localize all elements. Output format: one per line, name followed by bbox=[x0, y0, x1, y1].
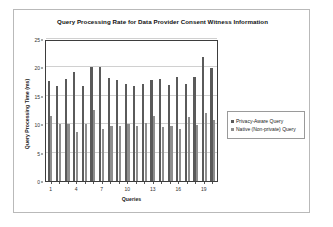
bar-group bbox=[210, 41, 215, 181]
y-tick-mark bbox=[41, 182, 44, 183]
y-tick-label: 15 bbox=[34, 94, 40, 100]
chart-figure: Query Processing Rate for Data Provider … bbox=[13, 9, 310, 213]
bar-group bbox=[90, 41, 95, 181]
x-tick-mark bbox=[102, 182, 103, 184]
bar-group bbox=[176, 41, 181, 181]
y-tick-label: 20 bbox=[34, 65, 40, 71]
x-tick-label: 19 bbox=[201, 186, 207, 192]
bar-native bbox=[196, 125, 198, 181]
y-tick-label: 10 bbox=[34, 122, 40, 128]
bar-native bbox=[188, 117, 190, 181]
x-tick-mark bbox=[170, 182, 171, 184]
chart-title: Query Processing Rate for Data Provider … bbox=[14, 18, 311, 25]
x-tick-mark bbox=[119, 182, 120, 184]
bar-group bbox=[116, 41, 121, 181]
x-axis-label: Queries bbox=[45, 196, 218, 202]
gridline bbox=[46, 38, 217, 39]
bar-group bbox=[48, 41, 53, 181]
chart-legend: Privacy-Aware QueryNative (Non-private) … bbox=[227, 111, 305, 139]
y-tick-mark bbox=[41, 40, 44, 41]
bar-native bbox=[110, 126, 112, 181]
bar-group bbox=[65, 41, 70, 181]
bar-group bbox=[168, 41, 173, 181]
x-tick-mark bbox=[59, 182, 60, 184]
y-tick-mark bbox=[41, 96, 44, 97]
bar-group bbox=[185, 41, 190, 181]
bar-native bbox=[145, 123, 147, 181]
x-tick-mark bbox=[127, 182, 128, 184]
bar-native bbox=[67, 124, 69, 181]
legend-item[interactable]: Privacy-Aware Query bbox=[231, 118, 301, 124]
bar-native bbox=[136, 126, 138, 181]
plot-area bbox=[45, 40, 218, 182]
x-tick-label: 7 bbox=[100, 186, 103, 192]
x-tick-label: 16 bbox=[175, 186, 181, 192]
x-tick-mark bbox=[110, 182, 111, 184]
x-axis-ticks: 14710131619 bbox=[45, 184, 218, 194]
bar-group bbox=[56, 41, 61, 181]
x-tick-mark bbox=[136, 182, 137, 184]
x-tick-mark bbox=[204, 182, 205, 184]
bar-group bbox=[99, 41, 104, 181]
x-tick-label: 1 bbox=[49, 186, 52, 192]
x-tick-mark bbox=[212, 182, 213, 184]
y-tick-label: 25 bbox=[34, 37, 40, 43]
bar-native bbox=[85, 124, 87, 181]
x-tick-mark bbox=[187, 182, 188, 184]
bar-group bbox=[142, 41, 147, 181]
legend-label: Privacy-Aware Query bbox=[236, 118, 283, 124]
y-tick-mark bbox=[41, 153, 44, 154]
x-tick-label: 13 bbox=[150, 186, 156, 192]
bar-group bbox=[73, 41, 78, 181]
bar-native bbox=[127, 124, 129, 181]
bar-group bbox=[202, 41, 207, 181]
legend-item[interactable]: Native (Non-private) Query bbox=[231, 126, 301, 132]
bar-group bbox=[133, 41, 138, 181]
bar-native bbox=[93, 110, 95, 181]
x-tick-mark bbox=[68, 182, 69, 184]
x-tick-mark bbox=[161, 182, 162, 184]
y-tick-mark bbox=[41, 68, 44, 69]
x-tick-mark bbox=[93, 182, 94, 184]
legend-label: Native (Non-private) Query bbox=[236, 126, 296, 132]
bar-native bbox=[50, 116, 52, 181]
x-tick-mark bbox=[144, 182, 145, 184]
bar-series-container bbox=[46, 41, 217, 181]
x-tick-mark bbox=[153, 182, 154, 184]
x-tick-mark bbox=[178, 182, 179, 184]
x-tick-mark bbox=[76, 182, 77, 184]
y-axis-ticks: 0510152025 bbox=[14, 40, 43, 182]
bar-group bbox=[159, 41, 164, 181]
bar-native bbox=[179, 129, 181, 181]
bar-native bbox=[213, 120, 215, 181]
x-tick-label: 4 bbox=[75, 186, 78, 192]
bar-native bbox=[162, 127, 164, 181]
bar-native bbox=[170, 126, 172, 181]
x-tick-mark bbox=[51, 182, 52, 184]
legend-swatch-icon bbox=[231, 128, 234, 131]
legend-swatch-icon bbox=[231, 120, 234, 123]
bar-group bbox=[82, 41, 87, 181]
bar-native bbox=[153, 116, 155, 181]
bar-native bbox=[119, 126, 121, 181]
bar-group bbox=[125, 41, 130, 181]
bar-group bbox=[193, 41, 198, 181]
bar-group bbox=[150, 41, 155, 181]
bar-group bbox=[108, 41, 113, 181]
y-tick-mark bbox=[41, 125, 44, 126]
x-tick-label: 10 bbox=[124, 186, 130, 192]
bar-native bbox=[102, 129, 104, 181]
bar-native bbox=[76, 132, 78, 181]
x-tick-mark bbox=[85, 182, 86, 184]
x-tick-mark bbox=[195, 182, 196, 184]
bar-native bbox=[205, 113, 207, 181]
bar-native bbox=[59, 124, 61, 181]
